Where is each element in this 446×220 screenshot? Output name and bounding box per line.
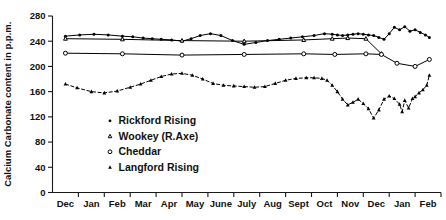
x-axis-tick-label: Dec (57, 198, 74, 209)
data-point-marker (387, 94, 391, 98)
y-axis-tick-label: 40 (35, 162, 46, 173)
data-point-marker (63, 51, 67, 55)
data-point-marker (289, 37, 292, 40)
data-point-marker (131, 35, 134, 38)
data-point-marker (336, 33, 339, 36)
legend-item: Langford Rising (108, 161, 199, 173)
legend-label: Langford Rising (119, 161, 200, 173)
data-point-marker (367, 33, 370, 36)
data-point-marker (242, 52, 246, 56)
data-point-marker (302, 38, 306, 42)
data-point-marker (209, 32, 212, 35)
data-point-marker (108, 134, 112, 137)
y-axis-title: Calcium Carbonate content in p.p.m. (2, 22, 13, 187)
data-point-marker (424, 33, 427, 36)
data-point-marker (414, 28, 417, 31)
series-cheddar (63, 51, 431, 68)
series-rickford-rising (64, 25, 431, 46)
chart-axes (53, 16, 442, 193)
data-point-marker (356, 97, 360, 101)
data-point-marker (190, 37, 193, 40)
legend-item: Rickford Rising (109, 114, 197, 126)
data-point-marker (419, 31, 422, 34)
x-axis-tick-label: Nov (341, 198, 360, 209)
data-point-marker (388, 32, 391, 35)
calcium-carbonate-line-chart: 04080120160200240280DecJanFebMarAprMayJu… (0, 0, 446, 220)
y-axis-tick-label: 0 (40, 187, 45, 198)
data-point-marker (199, 34, 202, 37)
y-axis-tick-label: 240 (30, 36, 46, 47)
data-point-marker (284, 78, 288, 82)
legend-label: Cheddar (119, 145, 162, 157)
x-axis-tick-label: Feb (109, 198, 126, 209)
data-point-marker (92, 33, 95, 36)
data-point-marker (393, 26, 396, 29)
y-axis-tick-label: 120 (30, 111, 46, 122)
x-axis-tick-label: Feb (420, 198, 437, 209)
data-point-marker (180, 53, 184, 57)
data-point-marker (398, 28, 401, 31)
x-axis-tick-label: May (186, 198, 205, 209)
data-point-marker (331, 33, 334, 36)
data-point-marker (108, 165, 112, 168)
data-point-marker (361, 102, 365, 106)
data-point-marker (425, 83, 429, 87)
data-point-marker (313, 34, 316, 37)
data-point-marker (330, 37, 334, 41)
data-point-marker (108, 150, 112, 154)
data-point-marker (427, 73, 431, 77)
data-point-marker (428, 36, 431, 39)
data-point-marker (427, 57, 431, 61)
data-point-marker (64, 82, 68, 86)
data-point-marker (121, 37, 125, 41)
data-point-marker (400, 110, 404, 114)
chart-legend: Rickford RisingWookey (R.Axe)CheddarLang… (108, 114, 199, 173)
x-axis-tick-label: Oct (317, 198, 334, 209)
legend-item: Wookey (R.Axe) (108, 130, 198, 142)
data-point-marker (341, 34, 344, 37)
data-point-marker (379, 52, 383, 56)
series-line (65, 73, 429, 118)
x-axis-tick-label: Mar (135, 198, 152, 209)
data-point-marker (302, 52, 306, 56)
y-axis-tick-label: 200 (30, 61, 46, 72)
chart-container: 04080120160200240280DecJanFebMarAprMayJu… (0, 0, 446, 220)
data-point-marker (346, 36, 350, 40)
x-axis-tick-label: Sept (288, 198, 309, 209)
y-axis-tick-label: 160 (30, 86, 46, 97)
data-point-marker (364, 37, 368, 41)
data-point-marker (294, 76, 298, 80)
data-point-marker (242, 39, 246, 43)
data-point-marker (364, 52, 368, 56)
data-point-marker (243, 43, 246, 46)
data-point-marker (408, 30, 411, 33)
data-point-marker (351, 33, 354, 36)
legend-item: Cheddar (108, 145, 161, 157)
series-langford-rising (64, 71, 432, 119)
data-point-marker (78, 33, 81, 36)
data-point-marker (180, 38, 184, 42)
y-axis-tick-label: 80 (35, 136, 46, 147)
x-axis-tick-label: Jan (394, 198, 411, 209)
data-point-marker (325, 78, 329, 82)
x-axis-tick-label: July (237, 198, 257, 209)
data-point-marker (109, 119, 112, 122)
data-point-marker (395, 61, 399, 65)
data-point-marker (403, 98, 407, 102)
data-point-marker (333, 52, 337, 56)
data-point-marker (403, 25, 406, 28)
data-point-marker (383, 38, 386, 41)
data-point-marker (142, 37, 145, 40)
series-line (65, 53, 429, 66)
data-point-marker (362, 33, 365, 36)
data-point-marker (107, 33, 110, 36)
y-axis-tick-label: 280 (30, 10, 46, 21)
x-axis-tick-label: Apr (161, 198, 178, 209)
data-point-marker (323, 32, 326, 35)
data-point-marker (372, 34, 375, 37)
x-axis-tick-label: Jan (83, 198, 100, 209)
x-axis-tick-label: Aug (263, 198, 282, 209)
data-point-marker (170, 72, 174, 76)
data-point-marker (413, 64, 417, 68)
data-point-marker (120, 52, 124, 56)
